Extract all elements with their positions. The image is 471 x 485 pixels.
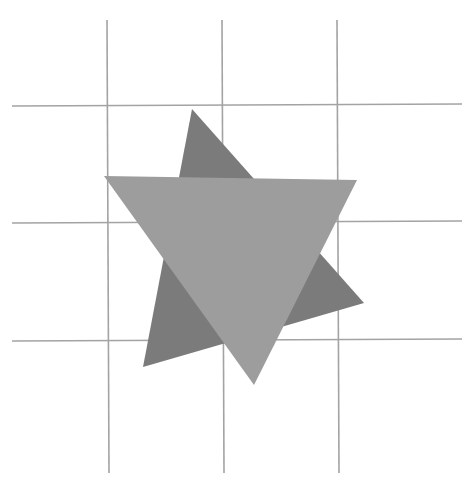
grid-with-overlapping-triangles (0, 0, 471, 485)
diagram-canvas (0, 0, 471, 485)
